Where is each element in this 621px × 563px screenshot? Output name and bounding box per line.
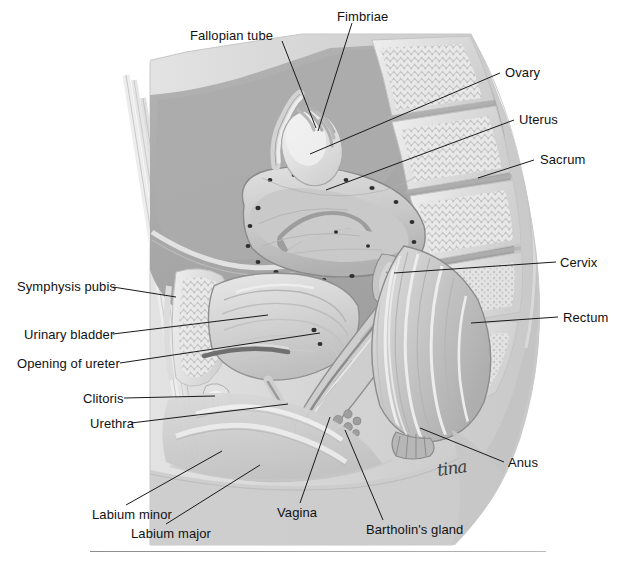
anatomy-figure: Fallopian tubeFimbriaeOvaryUterusSacrumC… [0, 0, 621, 563]
label-sacrum: Sacrum [540, 152, 585, 167]
bottom-divider [90, 551, 546, 552]
label-uterus: Uterus [519, 112, 558, 127]
label-vagina: Vagina [277, 505, 317, 520]
label-ovary: Ovary [505, 65, 540, 80]
label-urethra: Urethra [90, 416, 134, 431]
label-bartholins-gland: Bartholin's gland [366, 522, 463, 537]
label-opening-of-ureter: Opening of ureter [17, 356, 120, 371]
label-labium-major: Labium major [131, 526, 211, 541]
label-anus: Anus [508, 455, 538, 470]
label-rectum: Rectum [563, 310, 608, 325]
label-symphysis-pubis: Symphysis pubis [17, 279, 116, 294]
label-cervix: Cervix [560, 255, 597, 270]
label-labium-minor: Labium minor [92, 507, 172, 522]
label-fimbriae: Fimbriae [337, 9, 388, 24]
label-urinary-bladder: Urinary bladder [24, 327, 114, 342]
label-fallopian-tube: Fallopian tube [190, 28, 273, 43]
artist-signature: tina [436, 456, 468, 480]
label-clitoris: Clitoris [83, 391, 124, 406]
